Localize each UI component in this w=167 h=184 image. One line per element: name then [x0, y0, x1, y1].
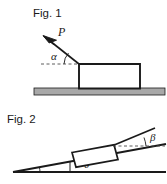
fig2-caption: Fig. 2	[7, 113, 36, 125]
fig1-block	[79, 64, 140, 89]
fig1-caption: Fig. 1	[33, 7, 62, 19]
fig1-angle-label: α	[51, 50, 57, 62]
fig1-group: Fig. 1 P α	[33, 7, 165, 95]
figures-canvas: Fig. 1 P α Fig. 2	[0, 0, 167, 184]
fig2-rising-line	[113, 128, 155, 146]
physics-figure-sheet: Fig. 1 P α Fig. 2	[0, 0, 167, 184]
fig2-upper-angle-label: β	[149, 131, 156, 143]
fig2-beta-arc	[144, 138, 146, 147]
fig2-group: Fig. 2 θ β	[7, 113, 166, 172]
fig2-block	[72, 145, 118, 167]
fig1-force-label: P	[57, 25, 66, 39]
